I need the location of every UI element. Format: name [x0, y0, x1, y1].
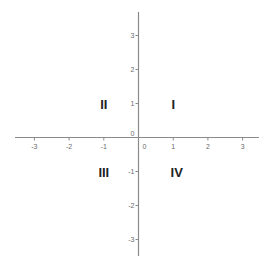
y-tick-label: -2	[128, 202, 134, 209]
x-tick-label: 1	[171, 143, 175, 150]
quadrant-label-i: I	[171, 97, 175, 112]
x-tick-label: -1	[101, 143, 107, 150]
quadrant-label-iv: IV	[171, 165, 184, 180]
y-tick-label: 1	[131, 100, 135, 107]
x-tick-label: 3	[241, 143, 245, 150]
coordinate-plane: -3-2-10123 3210-1-2-3 IIIIIIIV	[0, 0, 272, 269]
x-tick-label: -3	[31, 143, 37, 150]
x-tick-label: 0	[143, 143, 147, 150]
y-tick-label: 2	[131, 66, 135, 73]
y-tick-label: 3	[131, 32, 135, 39]
y-tick-label: -3	[128, 236, 134, 243]
y-tick-label: -1	[128, 168, 134, 175]
y-tick-label: 0	[131, 130, 135, 137]
x-tick-label: -2	[66, 143, 72, 150]
x-tick-label: 2	[206, 143, 210, 150]
quadrant-label-ii: II	[100, 97, 107, 112]
quadrant-label-iii: III	[98, 165, 109, 180]
